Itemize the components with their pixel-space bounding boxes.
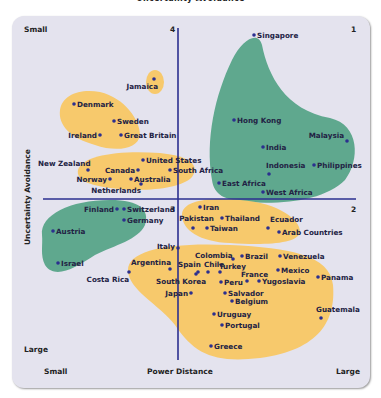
data-point-label: Greece: [214, 342, 242, 351]
data-point-label: Peru: [224, 278, 243, 287]
data-point-dot: [257, 279, 261, 283]
data-point-label: Iran: [203, 203, 219, 212]
data-point-label: Israel: [61, 259, 84, 268]
data-point-label: West Africa: [266, 188, 313, 197]
y-title-label: Uncertainty Avoidance: [23, 149, 32, 245]
data-point-dot: [230, 299, 234, 303]
x-large-label: Large: [336, 367, 360, 376]
data-point-label: Mexico: [281, 266, 309, 275]
data-point-label: Norway: [77, 175, 108, 184]
data-point-label: Indonesia: [266, 161, 306, 170]
data-point-dot: [176, 246, 180, 250]
data-point-dot: [119, 133, 123, 137]
data-point-dot: [217, 181, 221, 185]
data-point-label: South Korea: [156, 277, 206, 286]
data-point-dot: [122, 218, 126, 222]
data-point-dot: [51, 229, 55, 233]
data-point-dot: [206, 270, 210, 274]
data-point-dot: [127, 270, 131, 274]
data-point-label: Venezuela: [283, 252, 325, 261]
data-point-label: Arab Countries: [282, 228, 343, 237]
data-point-label: Thailand: [225, 214, 260, 223]
x-small-label: Small: [44, 367, 67, 376]
data-point-label: Great Britain: [124, 131, 176, 140]
data-point-label: Portugal: [225, 321, 260, 330]
data-point-dot: [277, 230, 281, 234]
data-point-label: New Zealand: [38, 159, 91, 168]
data-point-label: Guatemala: [316, 305, 360, 314]
data-point-label: Taiwan: [210, 224, 238, 233]
data-point-dot: [168, 168, 172, 172]
data-point-dot: [261, 145, 265, 149]
data-point-dot: [86, 168, 90, 172]
data-point-dot: [319, 316, 323, 320]
data-point-dot: [261, 190, 265, 194]
data-point-dot: [98, 133, 102, 137]
data-point-label: Denmark: [77, 100, 114, 109]
data-point-dot: [189, 291, 193, 295]
data-point-dot: [209, 344, 213, 348]
data-point-dot: [122, 207, 126, 211]
data-point-label: Panama: [321, 273, 353, 282]
data-point-dot: [152, 77, 156, 81]
data-point-label: Canada: [105, 166, 135, 175]
data-point-label: United States: [146, 156, 201, 165]
data-point-dot: [108, 177, 112, 181]
data-point-label: Hong Kong: [237, 116, 281, 125]
quadrant-1-label: 1: [351, 25, 356, 34]
data-point-label: Netherlands: [91, 186, 141, 195]
data-point-dot: [115, 207, 119, 211]
data-point-dot: [240, 254, 244, 258]
data-point-label: Costa Rica: [87, 275, 130, 284]
data-point-dot: [194, 272, 198, 276]
data-point-dot: [316, 275, 320, 279]
data-point-dot: [205, 226, 209, 230]
data-point-label: Pakistan: [179, 214, 214, 223]
y-bottom-large-label: Large: [24, 345, 48, 354]
data-point-label: Italy: [157, 242, 175, 251]
data-point-dot: [56, 261, 60, 265]
quadrant-4-label: 4: [170, 25, 175, 34]
data-point-label: Switzerland: [127, 205, 175, 214]
data-point-label: Singapore: [257, 31, 298, 40]
data-point-label: Brazil: [245, 252, 268, 261]
data-point-label: Philippines: [317, 161, 362, 170]
data-point-label: Malaysia: [309, 131, 345, 140]
data-point-dot: [129, 177, 133, 181]
data-point-dot: [220, 216, 224, 220]
data-point-label: Ecuador: [270, 215, 303, 224]
data-point-dot: [136, 168, 140, 172]
data-point-dot: [212, 312, 216, 316]
data-point-label: Belgium: [235, 297, 268, 306]
data-point-dot: [232, 118, 236, 122]
data-point-label: Yugoslavia: [261, 277, 306, 286]
data-point-dot: [220, 323, 224, 327]
data-point-label: Austria: [56, 227, 85, 236]
data-point-dot: [168, 267, 172, 271]
data-point-dot: [267, 172, 271, 176]
data-point-label: India: [266, 143, 286, 152]
data-point-dot: [345, 139, 349, 143]
data-point-label: Spain: [178, 260, 201, 269]
data-point-dot: [252, 33, 256, 37]
data-point-dot: [276, 268, 280, 272]
data-point-label: Australia: [134, 175, 171, 184]
quadrant-2-label: 2: [351, 205, 356, 214]
data-point-dot: [112, 119, 116, 123]
data-point-dot: [141, 158, 145, 162]
data-point-label: East Africa: [222, 179, 266, 188]
data-point-dot: [223, 291, 227, 295]
data-point-dot: [245, 279, 249, 283]
data-point-dot: [219, 280, 223, 284]
data-point-label: Japan: [164, 289, 188, 298]
data-point-label: Colombia: [195, 251, 233, 260]
data-point-label: Finland: [84, 205, 114, 214]
x-title-label: Power Distance: [147, 367, 213, 376]
data-point-label: Jamaica: [126, 82, 159, 91]
y-top-small-label: Small: [24, 25, 47, 34]
data-point-dot: [191, 226, 195, 230]
data-point-dot: [72, 102, 76, 106]
data-point-label: South Africa: [173, 166, 223, 175]
data-point-label: Ireland: [68, 131, 97, 140]
data-point-label: Argentina: [131, 258, 171, 267]
